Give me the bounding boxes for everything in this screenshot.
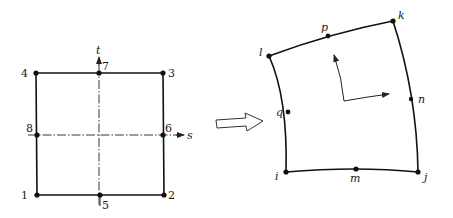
label-node-2: 2: [168, 189, 175, 202]
mapped-node-i: [283, 169, 288, 174]
mapped-node-l: [266, 53, 271, 58]
label-node-p: p: [321, 21, 328, 34]
label-t-axis: t: [96, 44, 101, 57]
mapped-node-j: [415, 169, 420, 174]
parent-node-1: [34, 192, 39, 197]
label-node-7: 7: [102, 60, 109, 73]
parent-element: 1 2 3 4 5 6 7 8 s t: [21, 44, 193, 212]
parent-node-4: [33, 70, 38, 75]
label-node-i: i: [275, 170, 279, 183]
parent-node-3: [160, 70, 165, 75]
parent-node-7: [96, 70, 101, 75]
label-node-n: n: [418, 93, 425, 106]
parent-element-boundary: [36, 73, 164, 195]
label-node-k: k: [398, 9, 405, 22]
mapped-node-m: [353, 166, 358, 171]
label-node-8: 8: [26, 122, 33, 135]
parent-node-8: [34, 132, 39, 137]
label-node-6: 6: [165, 122, 172, 135]
mapped-node-k: [390, 18, 395, 23]
parent-node-2: [161, 192, 166, 197]
label-s-axis: s: [187, 129, 193, 142]
local-axis-t-arrow-icon: [334, 55, 344, 101]
local-axis-s-arrow-icon: [344, 94, 389, 101]
label-node-5: 5: [102, 199, 109, 212]
parent-node-5: [97, 192, 102, 197]
isoparametric-diagram: 1 2 3 4 5 6 7 8 s t i j k l m n p q: [0, 0, 453, 218]
mapped-element: i j k l m n p q: [259, 9, 428, 185]
mapped-node-q: [286, 110, 291, 115]
label-node-4: 4: [21, 67, 28, 80]
label-node-j: j: [421, 171, 428, 184]
mapped-node-p: [326, 34, 331, 39]
label-node-q: q: [276, 106, 283, 119]
mapped-node-n: [409, 97, 413, 101]
label-node-l: l: [259, 46, 263, 59]
mapping-arrow-icon: [216, 113, 263, 131]
label-node-3: 3: [168, 67, 175, 80]
label-node-m: m: [350, 172, 360, 185]
label-node-1: 1: [21, 189, 28, 202]
